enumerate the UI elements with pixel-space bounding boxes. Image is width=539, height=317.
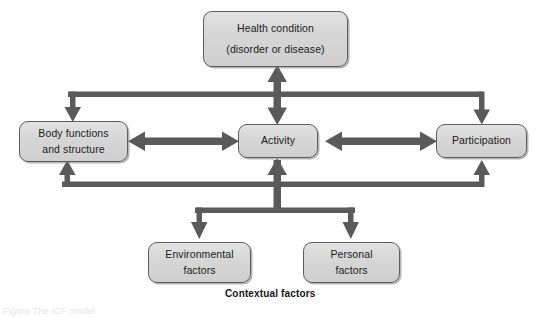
node-environmental-factors[interactable]: Environmental factors: [148, 242, 251, 283]
node-activity-line1: Activity: [261, 133, 295, 148]
node-environmental-factors-line2: factors: [183, 263, 215, 278]
node-health-condition[interactable]: Health condition (disorder or disease): [203, 11, 348, 67]
node-body-functions-and-structure[interactable]: Body functions and structure: [19, 121, 128, 162]
node-personal-factors-line1: Personal: [330, 247, 372, 262]
contextual-factors-label: Contextual factors: [225, 288, 316, 299]
node-health-condition-line2: (disorder or disease): [226, 42, 324, 57]
node-personal-factors[interactable]: Personal factors: [303, 242, 400, 283]
icf-model-diagram: Health condition (disorder or disease) B…: [0, 0, 539, 317]
figure-caption: Figure The ICF model.: [3, 305, 98, 316]
bottom-bus-connector: [59, 158, 490, 212]
node-participation[interactable]: Participation: [436, 124, 527, 158]
node-participation-line1: Participation: [452, 133, 511, 148]
node-body-functions-line2: and structure: [42, 142, 105, 157]
node-body-functions-line1: Body functions: [38, 126, 108, 141]
node-health-condition-line1: Health condition: [237, 21, 314, 36]
body-functions-activity-arrow: [128, 132, 239, 152]
contextual-factors-fork-connector: [191, 208, 359, 240]
activity-participation-arrow: [325, 132, 437, 152]
node-activity[interactable]: Activity: [238, 124, 318, 158]
node-environmental-factors-line1: Environmental: [165, 247, 233, 262]
node-personal-factors-line2: factors: [335, 263, 367, 278]
